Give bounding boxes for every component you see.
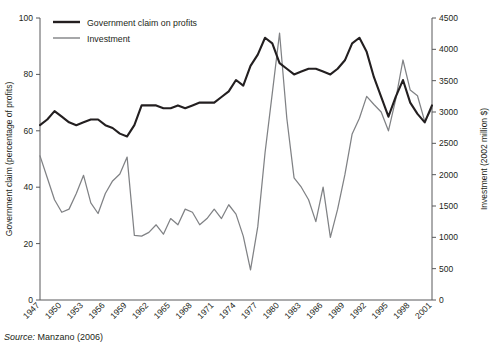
x-tick-label: 1965: [152, 300, 173, 321]
x-tick-label: 1959: [108, 300, 129, 321]
x-tick-label: 1962: [130, 300, 151, 321]
left-axis: 020406080100 Government claim (percentag…: [4, 13, 40, 305]
legend-label-investment: Investment: [87, 34, 131, 44]
left-tick-label: 20: [24, 239, 34, 249]
legend: Government claim on profits Investment: [53, 18, 198, 44]
left-axis-ticks: 020406080100: [19, 13, 40, 305]
x-tick-label: 1995: [369, 300, 390, 321]
source-label: Source:: [4, 332, 35, 342]
left-tick-label: 40: [24, 182, 34, 192]
right-tick-label: 3500: [439, 76, 458, 86]
left-tick-label: 80: [24, 69, 34, 79]
x-tick-label: 1986: [304, 300, 325, 321]
chart-figure: 020406080100 Government claim (percentag…: [0, 0, 494, 350]
x-tick-label: 1947: [21, 300, 42, 321]
x-axis-tick-labels: 1947195019531956195919621965196819711974…: [21, 300, 434, 321]
right-tick-label: 4000: [439, 44, 458, 54]
x-tick-label: 2001: [413, 300, 434, 321]
x-tick-label: 1983: [282, 300, 303, 321]
right-tick-label: 0: [439, 295, 444, 305]
x-tick-label: 1956: [86, 300, 107, 321]
series-line-investment: [40, 33, 432, 270]
x-tick-label: 1968: [173, 300, 194, 321]
x-axis: 1947195019531956195919621965196819711974…: [21, 300, 434, 321]
dual-axis-line-chart: 020406080100 Government claim (percentag…: [0, 0, 494, 350]
plot-series: [40, 33, 432, 270]
x-tick-label: 1953: [65, 300, 86, 321]
series-line-government-claim: [40, 38, 432, 137]
right-tick-label: 500: [439, 264, 453, 274]
source-note: Source: Manzano (2006): [4, 332, 103, 342]
source-text: Manzano (2006): [38, 332, 104, 342]
right-tick-label: 1000: [439, 232, 458, 242]
x-tick-label: 1980: [261, 300, 282, 321]
right-axis: 050010001500200025003000350040004500 Inv…: [432, 13, 489, 305]
x-tick-label: 1989: [326, 300, 347, 321]
left-axis-title: Government claim (percentage of profits): [4, 82, 14, 237]
x-tick-label: 1992: [348, 300, 369, 321]
right-axis-ticks: 050010001500200025003000350040004500: [432, 13, 458, 305]
right-tick-label: 4500: [439, 13, 458, 23]
right-tick-label: 3000: [439, 107, 458, 117]
x-tick-label: 1950: [43, 300, 64, 321]
right-tick-label: 2000: [439, 170, 458, 180]
x-tick-label: 1977: [239, 300, 260, 321]
x-tick-label: 1971: [195, 300, 216, 321]
left-tick-label: 100: [19, 13, 33, 23]
right-axis-title: Investment (2002 million $): [479, 108, 489, 210]
x-tick-label: 1998: [391, 300, 412, 321]
right-tick-label: 2500: [439, 138, 458, 148]
right-tick-label: 1500: [439, 201, 458, 211]
x-tick-label: 1974: [217, 300, 238, 321]
legend-label-government-claim: Government claim on profits: [87, 18, 198, 28]
left-tick-label: 60: [24, 126, 34, 136]
